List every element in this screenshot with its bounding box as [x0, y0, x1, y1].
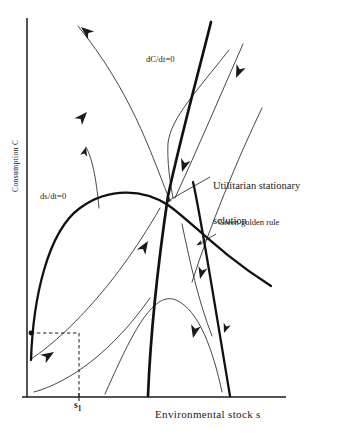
trajectory-lower-middle-hump	[105, 299, 222, 394]
flow-arrow-lower-left-up	[40, 348, 56, 363]
s1-tick-label: s1	[74, 400, 81, 413]
green-golden-rule-label: Green golden rule	[218, 218, 279, 228]
trajectory-lower-left-shallow	[34, 298, 150, 392]
x-axis-label: Environmental stock s	[155, 408, 261, 420]
utilitarian-label-line1: Utilitarian stationary	[213, 180, 300, 192]
phase-diagram-figure: dC/dt=0 ds/dt=0 Utilitarian stationary s…	[0, 0, 338, 433]
s1-tick-subscript: 1	[78, 404, 82, 413]
dashed-guide-group	[31, 333, 79, 396]
flow-arrow-far-right-down	[220, 323, 230, 335]
utilitarian-stationary-solution-label: Utilitarian stationary solution	[213, 156, 300, 250]
trajectory-right-descending-outer	[182, 224, 212, 336]
flow-arrow-into-saddle	[137, 238, 152, 254]
flow-arrow-dCdt-down	[177, 158, 190, 173]
trajectory-lower-left-into-saddle	[31, 208, 160, 359]
initial-condition-point	[29, 331, 34, 336]
flow-arrow-right-lower-down	[188, 324, 201, 339]
dC-dt-nullcline-label: dC/dt=0	[146, 55, 175, 65]
trajectory-upper-left-outgoing	[78, 26, 168, 196]
ds-dt-nullcline-label: ds/dt=0	[40, 192, 66, 202]
flow-arrow-mid-left	[75, 109, 91, 125]
flow-arrow-right-down	[196, 266, 208, 280]
y-axis-label: Consumption C	[12, 140, 20, 193]
dC-dt-nullcline	[148, 22, 211, 396]
